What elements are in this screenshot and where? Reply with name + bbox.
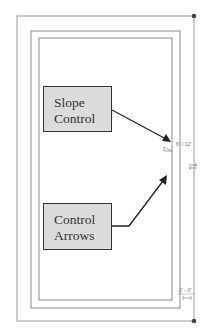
middle-boundary — [31, 31, 180, 308]
slope-control-line-2: Control — [54, 111, 111, 127]
roof-plan-drawing: 6" / 12" 2' - 0" — [0, 0, 209, 332]
control-arrows-line-1: Control — [54, 212, 111, 228]
slope-control-callout: Slope Control — [43, 86, 112, 132]
slope-symbol-icon[interactable] — [164, 147, 172, 151]
grip-handle-bottom-right[interactable] — [192, 319, 197, 324]
control-arrows-leader-line — [112, 181, 163, 226]
control-arrows-arrowhead-icon — [159, 175, 167, 185]
dimension-witness-icon — [183, 296, 191, 300]
slope-leader-line — [112, 110, 166, 139]
control-arrows-callout: Control Arrows — [43, 203, 112, 250]
grip-handle-top-right[interactable] — [192, 14, 197, 19]
inner-boundary — [39, 38, 172, 300]
flip-arrows-icon[interactable] — [189, 164, 197, 170]
slope-label: 6" / 12" — [176, 141, 192, 147]
overhang-dimension-label[interactable]: 2' - 0" — [179, 287, 192, 293]
outer-boundary — [17, 16, 194, 321]
slope-control-line-1: Slope — [54, 95, 111, 111]
control-arrows-line-2: Arrows — [54, 228, 111, 244]
